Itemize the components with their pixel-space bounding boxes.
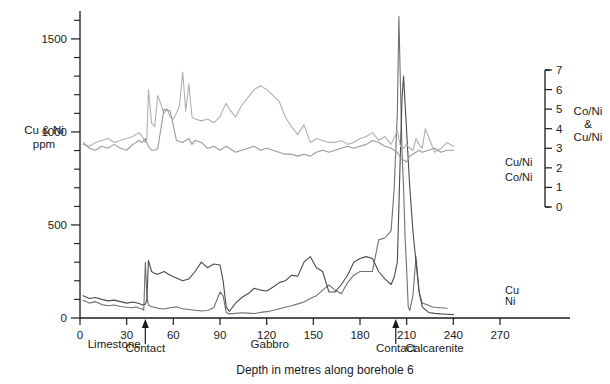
x-axis-tick-label: 0 [77,329,83,341]
series-label-cu-ni: Cu/Ni [505,156,533,168]
series-label-co-ni: Co/Ni [505,171,533,183]
y-axis-right-tick-label: 5 [556,103,562,115]
y-axis-right-tick-label: 2 [556,162,562,174]
y-axis-right-tick-label: 0 [556,201,562,213]
y-axis-right-title-line2: & [584,118,592,130]
x-axis-tick-label: 60 [167,329,180,341]
borehole-geochemistry-chart: 050010001500Cu & Nippm030609012015018021… [0,0,610,384]
contact-label: Contact [126,342,166,354]
series-label-ni: Ni [505,295,515,307]
y-axis-right-tick-label: 7 [556,64,562,76]
x-axis-tick-label: 180 [350,329,369,341]
y-axis-left-title-line2: ppm [33,138,55,150]
x-axis-tick-label: 270 [490,329,509,341]
x-axis-title: Depth in metres along borehole 6 [236,363,414,377]
y-axis-right-tick-label: 6 [556,84,562,96]
y-axis-right-tick-label: 4 [556,123,563,135]
y-axis-right-tick-label: 1 [556,181,562,193]
x-axis-tick-label: 90 [214,329,227,341]
contact-marker-arrow [392,319,399,328]
y-axis-right-title-line3: Cu/Ni [574,131,603,143]
y-axis-left-title-line1: Cu & Ni [24,124,64,136]
chart-canvas: 050010001500Cu & Nippm030609012015018021… [0,0,610,384]
y-axis-right-title-line1: Co/Ni [574,105,603,117]
x-axis-tick-label: 240 [444,329,463,341]
contact-marker-arrow [142,319,149,328]
lithology-label-calcarenite: Calcarenite [406,342,464,354]
x-axis-tick-label: 210 [397,329,416,341]
y-axis-left-tick-label: 1500 [41,33,67,45]
y-axis-left-tick-label: 500 [48,219,67,231]
lithology-label-gabbro: Gabbro [251,338,289,350]
x-axis-tick-label: 150 [304,329,323,341]
y-axis-right-tick-label: 3 [556,142,562,154]
series-line-cu [83,17,447,314]
y-axis-left-tick-label: 0 [61,312,67,324]
